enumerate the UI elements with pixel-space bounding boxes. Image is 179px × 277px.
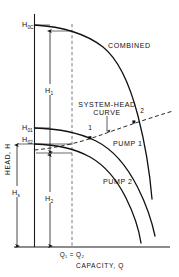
x-axis-label: CAPACITY, Q <box>76 262 124 270</box>
curves <box>35 25 174 243</box>
h0c-subscript: 0C <box>27 25 34 30</box>
combined-curve-label: COMBINED <box>108 42 151 50</box>
system-head-curve-label-line1: SYSTEM-HEAD <box>78 101 135 109</box>
pump-1-curve-label: PUMP 1 <box>113 140 143 148</box>
pump-performance-chart: HEAD, H CAPACITY, Q Q₁ = Q₂ COMBINED PUM… <box>0 0 179 277</box>
h02-label: H 02 <box>22 135 33 145</box>
hs-label: H s <box>11 186 24 198</box>
h1-subscript: 1 <box>50 91 53 96</box>
system-head-curve-label-line2: CURVE <box>93 109 120 117</box>
operating-points <box>88 120 135 139</box>
h2-subscript: 2 <box>50 199 53 204</box>
h0c-label: H 0C <box>22 20 34 30</box>
h01-label: H 01 <box>22 123 33 133</box>
h01-subscript: 01 <box>27 128 33 133</box>
h2-label: H 2 <box>44 192 57 204</box>
pump-2-curve-label: PUMP 2 <box>103 178 133 186</box>
y-axis-label: HEAD, H <box>4 143 11 175</box>
operating-point-1-marker <box>88 136 91 139</box>
operating-point-2-label: 2 <box>140 107 144 114</box>
operating-point-2-marker <box>132 120 135 123</box>
capacity-tick-label: Q₁ = Q₂ <box>60 251 85 259</box>
h1-label: H 1 <box>44 84 57 96</box>
h02-subscript: 02 <box>27 140 33 145</box>
operating-point-1-label: 1 <box>88 124 92 131</box>
